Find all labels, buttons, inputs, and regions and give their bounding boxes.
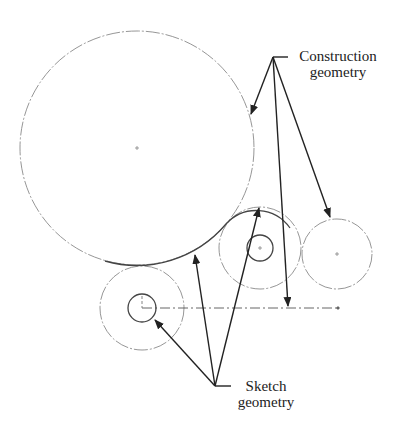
sketch-diagram: Construction geometry Sketch geometry [0, 0, 393, 439]
right-circle-center-mark [335, 252, 339, 256]
sketch-label-line2: geometry [228, 394, 304, 410]
center-marks [135, 146, 339, 309]
middle-circle-center-mark [258, 246, 262, 250]
large-circle-center-mark [135, 146, 139, 150]
sketch-geometry-label: Sketch geometry [228, 378, 304, 410]
construction-geometry-label: Construction geometry [290, 48, 386, 80]
sketch-geometry [105, 211, 290, 322]
sketch-leader-arrows [155, 208, 259, 386]
arrow-to-large-circle [251, 57, 273, 114]
sketch-label-line1: Sketch [228, 378, 304, 394]
construction-label-line2: geometry [290, 64, 386, 80]
construction-leader-arrows [251, 57, 330, 306]
construction-label-line1: Construction [290, 48, 386, 64]
sketch-tangent-arc [105, 211, 290, 266]
centerline-endpoint [337, 307, 340, 310]
